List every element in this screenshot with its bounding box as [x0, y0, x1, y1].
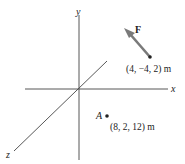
x-axis-label: x [170, 83, 176, 94]
y-axis-label: y [75, 6, 81, 17]
z-axis-label: z [5, 149, 10, 160]
force-point-coordinates: (4, −4, 2) m [126, 64, 172, 75]
point-a-coordinates: (8, 2, 12) m [110, 122, 155, 133]
point-a-label: A [95, 110, 103, 121]
force-label: F [135, 24, 141, 35]
z-axis [14, 61, 107, 151]
force-tail-point [148, 55, 152, 59]
coordinate-diagram: y x z F (4, −4, 2) m A (8, 2, 12) m [0, 0, 185, 164]
point-a [105, 114, 109, 118]
